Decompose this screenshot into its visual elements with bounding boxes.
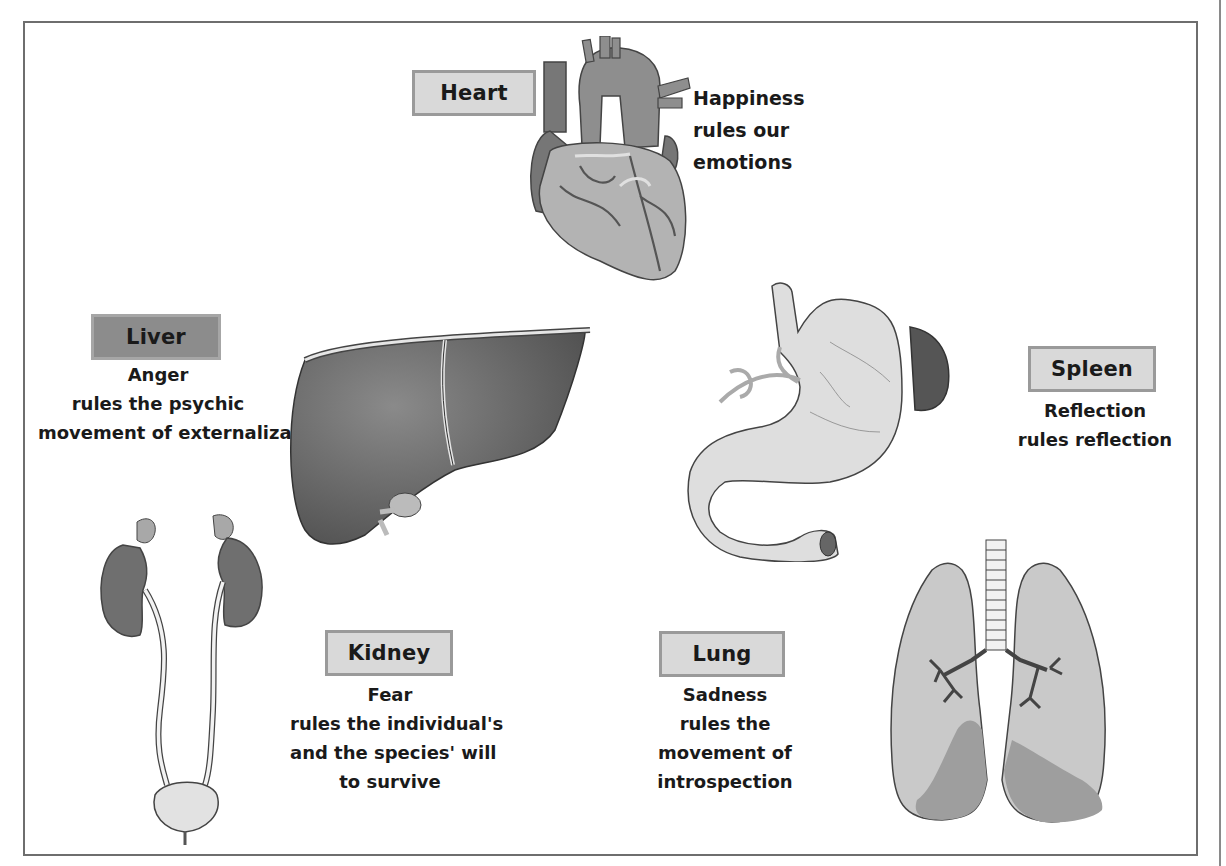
lung-caption-line: introspection [640,767,810,796]
liver-illustration [285,320,595,555]
spleen-caption: Reflection rules reflection [1010,396,1180,454]
liver-caption: Anger rules the psychic movement of exte… [38,360,278,447]
lung-caption-line: movement of [640,738,810,767]
spleen-label: Spleen [1028,346,1156,392]
lung-caption-line: rules the [640,709,810,738]
heart-caption-line: Happiness [693,82,804,114]
liver-label-text: Liver [126,325,186,349]
liver-caption-line: rules the psychic [38,389,278,418]
kidney-caption-line: and the species' will [290,738,490,767]
kidney-caption-line: to survive [290,767,490,796]
lung-caption: Sadness rules the movement of introspect… [640,680,810,796]
kidney-label-text: Kidney [348,641,431,665]
liver-caption-line: Anger [38,360,278,389]
heart-caption: Happiness rules our emotions [693,82,804,178]
liver-label: Liver [91,314,221,360]
stomach-spleen-illustration [680,272,965,562]
lung-label: Lung [659,631,785,677]
kidney-caption: Fear rules the individual's and the spec… [290,680,490,796]
page-edge-line [1219,0,1221,866]
spleen-caption-line: rules reflection [1010,425,1180,454]
kidney-caption-line: Fear [290,680,490,709]
spleen-label-text: Spleen [1051,357,1133,381]
kidney-label: Kidney [325,630,453,676]
spleen-caption-line: Reflection [1010,396,1180,425]
lung-label-text: Lung [692,642,751,666]
heart-label-text: Heart [440,81,507,105]
heart-caption-line: emotions [693,146,804,178]
liver-caption-line: movement of externalization [38,418,278,447]
heart-caption-line: rules our [693,114,804,146]
heart-label: Heart [412,70,536,116]
kidney-illustration [95,510,275,845]
lung-caption-line: Sadness [640,680,810,709]
heart-illustration [520,36,700,286]
lung-illustration [882,530,1112,840]
kidney-caption-line: rules the individual's [290,709,490,738]
